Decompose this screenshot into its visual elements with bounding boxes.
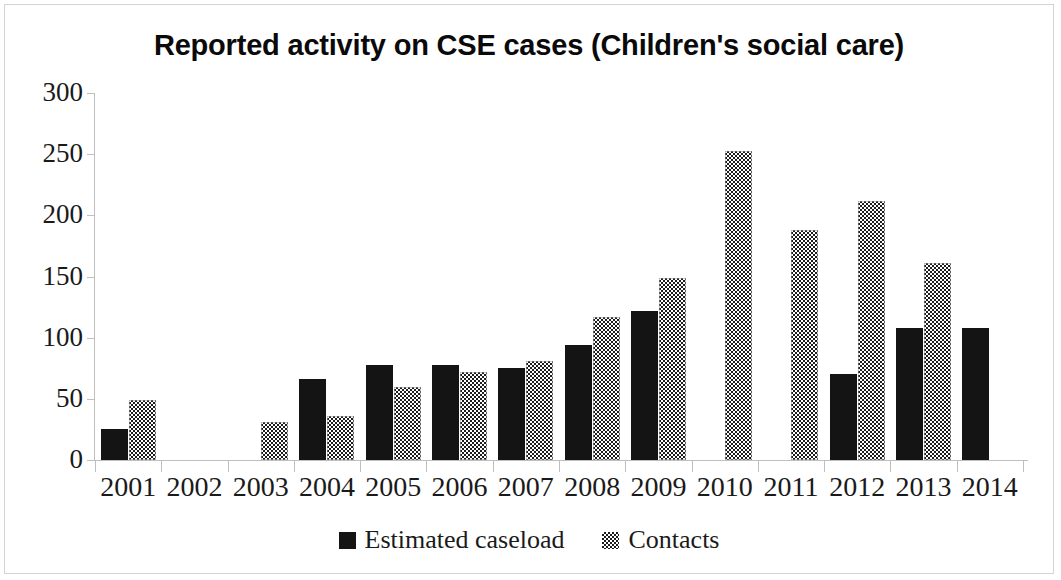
legend-label: Estimated caseload xyxy=(365,527,565,553)
bar-estimated-caseload-2013[interactable] xyxy=(896,328,923,460)
x-tick-label: 2013 xyxy=(890,473,956,501)
legend-swatch-icon xyxy=(339,532,356,549)
bar-group xyxy=(824,93,890,460)
x-tick-label: 2009 xyxy=(625,473,691,501)
bar-contacts-2001[interactable] xyxy=(129,400,156,460)
x-tick-mark xyxy=(692,461,693,472)
bar-group xyxy=(493,93,559,460)
x-tick-mark xyxy=(426,461,427,472)
bar-estimated-caseload-2009[interactable] xyxy=(631,311,658,460)
x-tick-mark xyxy=(493,461,494,472)
x-tick-label: 2005 xyxy=(360,473,426,501)
bar-contacts-2013[interactable] xyxy=(924,263,951,460)
bar-contacts-2005[interactable] xyxy=(394,387,421,460)
x-tick-mark xyxy=(957,461,958,472)
bar-group xyxy=(228,93,294,460)
x-tick-label: 2010 xyxy=(692,473,758,501)
y-tick-label: 50 xyxy=(7,385,83,412)
bar-contacts-2004[interactable] xyxy=(327,416,354,460)
x-tick-mark xyxy=(360,461,361,472)
bar-group xyxy=(625,93,691,460)
bar-group xyxy=(95,93,161,460)
plot-area xyxy=(95,93,1023,460)
bar-group xyxy=(426,93,492,460)
chart-frame: Reported activity on CSE cases (Children… xyxy=(4,4,1054,574)
bar-group xyxy=(161,93,227,460)
bar-contacts-2006[interactable] xyxy=(460,372,487,460)
y-tick-label: 150 xyxy=(7,263,83,290)
bar-contacts-2009[interactable] xyxy=(659,278,686,460)
y-tick-label: 0 xyxy=(7,446,83,473)
bar-estimated-caseload-2006[interactable] xyxy=(432,365,459,460)
x-tick-label: 2007 xyxy=(493,473,559,501)
x-tick-mark xyxy=(758,461,759,472)
bar-estimated-caseload-2008[interactable] xyxy=(565,345,592,460)
x-tick-mark xyxy=(559,461,560,472)
x-tick-label: 2006 xyxy=(426,473,492,501)
legend-swatch-icon xyxy=(602,532,619,549)
bar-group xyxy=(559,93,625,460)
x-tick-label: 2008 xyxy=(559,473,625,501)
y-tick-label: 100 xyxy=(7,324,83,351)
bar-contacts-2003[interactable] xyxy=(261,422,288,460)
x-tick-label: 2004 xyxy=(294,473,360,501)
y-axis: 050100150200250300 xyxy=(5,5,83,580)
y-tick-mark xyxy=(87,277,95,278)
x-tick-mark xyxy=(228,461,229,472)
bar-group xyxy=(890,93,956,460)
x-tick-mark xyxy=(625,461,626,472)
bar-contacts-2011[interactable] xyxy=(791,230,818,460)
x-axis: 2001200220032004200520062007200820092010… xyxy=(95,473,1023,513)
bar-group xyxy=(294,93,360,460)
y-tick-label: 200 xyxy=(7,201,83,228)
bar-estimated-caseload-2005[interactable] xyxy=(366,365,393,460)
y-tick-mark xyxy=(87,154,95,155)
x-tick-mark xyxy=(1023,461,1024,472)
bar-contacts-2008[interactable] xyxy=(593,317,620,460)
bar-estimated-caseload-2001[interactable] xyxy=(101,429,128,460)
y-tick-label: 300 xyxy=(7,79,83,106)
x-tick-label: 2002 xyxy=(161,473,227,501)
y-tick-mark xyxy=(87,338,95,339)
x-tick-label: 2011 xyxy=(758,473,824,501)
x-tick-label: 2001 xyxy=(95,473,161,501)
x-tick-mark xyxy=(161,461,162,472)
y-tick-label: 250 xyxy=(7,140,83,167)
bar-group xyxy=(957,93,1023,460)
bar-estimated-caseload-2014[interactable] xyxy=(962,328,989,460)
legend-label: Contacts xyxy=(628,527,719,553)
bar-group xyxy=(758,93,824,460)
x-tick-label: 2012 xyxy=(824,473,890,501)
y-tick-mark xyxy=(87,93,95,94)
y-tick-mark xyxy=(87,460,95,461)
bar-estimated-caseload-2012[interactable] xyxy=(830,374,857,460)
bar-group xyxy=(360,93,426,460)
x-tick-mark xyxy=(890,461,891,472)
bar-estimated-caseload-2007[interactable] xyxy=(498,368,525,460)
y-tick-mark xyxy=(87,399,95,400)
legend-entry-contacts[interactable]: Contacts xyxy=(602,527,719,553)
bar-estimated-caseload-2004[interactable] xyxy=(299,379,326,460)
bar-contacts-2012[interactable] xyxy=(858,201,885,460)
y-tick-mark xyxy=(87,215,95,216)
x-tick-mark xyxy=(294,461,295,472)
bar-group xyxy=(692,93,758,460)
legend-entry-estimated-caseload[interactable]: Estimated caseload xyxy=(339,527,565,553)
x-tick-mark xyxy=(95,461,96,472)
chart-title: Reported activity on CSE cases (Children… xyxy=(5,29,1053,62)
x-tick-mark xyxy=(824,461,825,472)
bar-contacts-2010[interactable] xyxy=(725,151,752,461)
chart-legend: Estimated caseloadContacts xyxy=(5,527,1053,553)
bar-contacts-2007[interactable] xyxy=(526,361,553,460)
x-tick-label: 2014 xyxy=(957,473,1023,501)
x-tick-label: 2003 xyxy=(228,473,294,501)
